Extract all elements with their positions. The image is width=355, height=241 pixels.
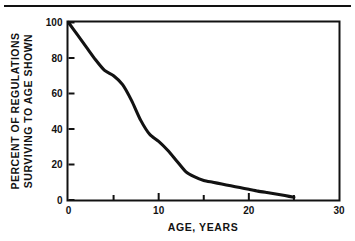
y-tick-label-0: 0 xyxy=(57,195,63,206)
figure-container: 020406080100 0102030 AGE, YEARS PERCENT … xyxy=(0,0,355,241)
y-axis-tick-labels: 020406080100 xyxy=(46,17,63,206)
x-tick-label-20: 20 xyxy=(243,205,255,216)
y-tick-label-20: 20 xyxy=(51,159,63,170)
x-tick-label-30: 30 xyxy=(333,205,345,216)
y-tick-label-40: 40 xyxy=(51,124,63,135)
y-tick-label-60: 60 xyxy=(51,88,63,99)
plot-frame xyxy=(68,22,340,201)
y-axis-title-line1: PERCENT OF REGULATIONS xyxy=(9,32,21,189)
y-axis-ticks xyxy=(69,23,75,201)
x-tick-label-10: 10 xyxy=(153,205,165,216)
line-chart: 020406080100 0102030 AGE, YEARS PERCENT … xyxy=(0,0,355,241)
y-tick-label-80: 80 xyxy=(51,53,63,64)
x-axis-tick-labels: 0102030 xyxy=(66,205,345,216)
y-tick-label-100: 100 xyxy=(46,17,63,28)
x-axis-title: AGE, YEARS xyxy=(168,221,239,233)
survival-curve xyxy=(69,23,294,198)
y-axis-title-line2: SURVIVING TO AGE SHOWN xyxy=(22,34,34,188)
x-tick-label-0: 0 xyxy=(66,205,72,216)
